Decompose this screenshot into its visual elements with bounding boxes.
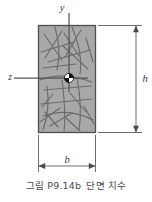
cross-section-diagram: y z h b bbox=[0, 0, 152, 202]
width-dimension-label: b bbox=[64, 154, 69, 165]
height-dimension bbox=[98, 26, 142, 133]
arrowhead-down bbox=[133, 126, 139, 133]
y-axis-label: y bbox=[59, 2, 65, 13]
arrowhead-right bbox=[89, 163, 96, 169]
arrowhead-left bbox=[39, 163, 46, 169]
figure-container: y z h b 그림 P9.14b단면 치수 bbox=[0, 0, 152, 202]
caption-description: 단면 치수 bbox=[86, 180, 126, 191]
height-dimension-label: h bbox=[142, 73, 147, 84]
z-axis-label: z bbox=[7, 72, 12, 82]
centroid-marker bbox=[64, 73, 73, 82]
caption-figure-number: 그림 P9.14b bbox=[26, 180, 82, 191]
figure-caption: 그림 P9.14b단면 치수 bbox=[0, 178, 152, 192]
arrowhead-up bbox=[133, 26, 139, 33]
